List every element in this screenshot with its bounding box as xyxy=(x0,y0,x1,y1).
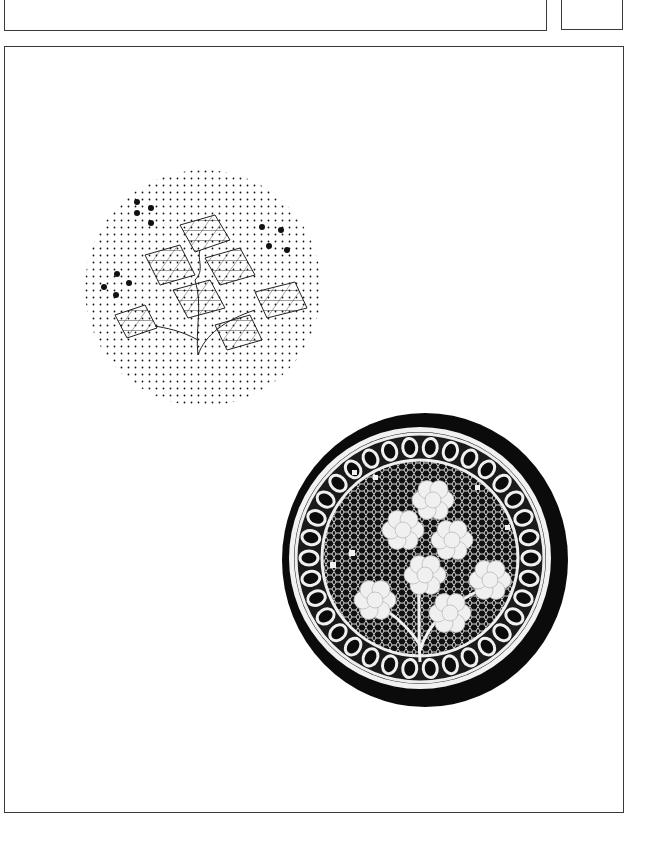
top-text-frame xyxy=(4,0,547,31)
top-corner-frame xyxy=(561,0,623,30)
lace-pricking-diagram: (function(){ var cx=148,cy=148; var lg=d… xyxy=(55,140,355,440)
lace-photo: (function(){ var ns='http://www.w3.org/2… xyxy=(270,400,580,720)
